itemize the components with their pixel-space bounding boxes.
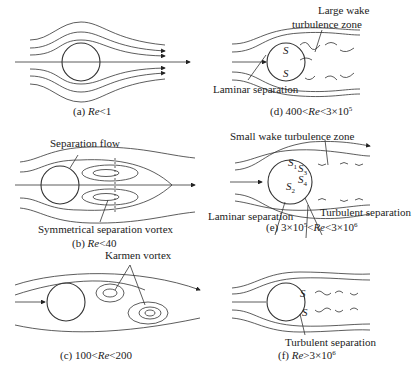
panel-c-flow (15, 265, 200, 332)
large-wake-label: Large wake (318, 5, 369, 16)
caption-b: (b) Re<40 (72, 238, 116, 249)
panel-a-flow (15, 22, 190, 102)
s-label-d-top: S (283, 45, 289, 56)
s2-label: S2 (286, 181, 295, 195)
panel-b-flow (15, 147, 195, 223)
small-wake-label: Small wake turbulence zone (230, 131, 354, 142)
s-label-f-bottom: S (302, 307, 308, 318)
s-label-f-top: S (300, 288, 306, 299)
symmetrical-vortex-label: Symmetrical separation vortex (38, 224, 173, 235)
s-label-d-bottom: S (283, 68, 289, 79)
caption-d: (d) 400<Re<3×105 (270, 106, 352, 117)
s4-label: S4 (298, 174, 307, 188)
flow-diagrams (0, 0, 417, 376)
turbulent-separation-label-f: Turbulent separation (285, 337, 376, 348)
caption-e: (e) 3×105<Re<3×106 (266, 222, 357, 233)
s1-label: S1 (288, 157, 297, 171)
panel-f-flow (232, 272, 370, 335)
turbulence-zone-label: turbulence zone (292, 19, 362, 30)
caption-a: (a) Re<1 (73, 106, 111, 117)
turbulent-separation-label-e: Turbulent separation (320, 207, 411, 218)
karmen-vortex-label: Karmen vortex (105, 250, 171, 261)
caption-c: (c) 100<Re<200 (60, 350, 132, 361)
caption-f: (f) Re>3×106 (278, 350, 336, 361)
laminar-separation-label-d: Laminar separation (213, 84, 298, 95)
separation-flow-label: Separation flow (50, 138, 120, 149)
